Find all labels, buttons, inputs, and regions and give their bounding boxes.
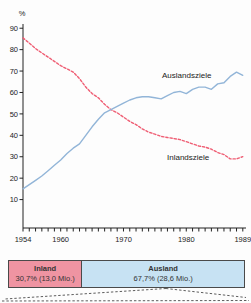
destination-share-bar: Inland 30,7% (13,0 Mio.) Ausland 67,7% (… bbox=[8, 260, 245, 288]
line-chart: %10203040506070809019541960197019801989A… bbox=[0, 0, 251, 256]
series-label-auslandsziele: Auslandsziele bbox=[162, 71, 212, 80]
bar-segment-inland: Inland 30,7% (13,0 Mio.) bbox=[9, 261, 82, 287]
bar-segment-inland-label: Inland bbox=[34, 265, 56, 274]
travel-destinations-figure: %10203040506070809019541960197019801989A… bbox=[0, 0, 251, 303]
y-tick-label: 50 bbox=[10, 110, 18, 119]
x-tick-label: 1970 bbox=[115, 235, 132, 244]
y-tick-label: 70 bbox=[10, 67, 18, 76]
bar-segment-ausland-value: 67,7% (28,6 Mio.) bbox=[134, 275, 193, 284]
y-tick-label: 60 bbox=[10, 88, 18, 97]
y-tick-label: 80 bbox=[10, 45, 18, 54]
y-tick-label: 30 bbox=[10, 152, 18, 161]
bar-segment-ausland-label: Ausland bbox=[148, 265, 178, 274]
x-tick-label: 1989 bbox=[234, 235, 251, 244]
callout-line-right bbox=[166, 289, 246, 298]
y-tick-label: 20 bbox=[10, 174, 18, 183]
series-line-auslandsziele bbox=[23, 72, 243, 189]
bar-segment-ausland: Ausland 67,7% (28,6 Mio.) bbox=[82, 261, 244, 287]
y-tick-label: 40 bbox=[10, 131, 18, 140]
y-axis-unit-label: % bbox=[19, 9, 26, 18]
y-tick-label: 10 bbox=[10, 195, 18, 204]
callout-line-bottom bbox=[2, 301, 249, 302]
y-tick-label: 90 bbox=[10, 24, 18, 33]
x-tick-label: 1980 bbox=[178, 235, 195, 244]
bar-segment-inland-value: 30,7% (13,0 Mio.) bbox=[16, 275, 75, 284]
callout-line-left bbox=[5, 289, 166, 300]
callout-dashed-lines bbox=[0, 286, 251, 303]
x-tick-label: 1954 bbox=[15, 235, 32, 244]
series-label-inlandsziele: Inlandsziele bbox=[167, 153, 210, 162]
x-tick-label: 1960 bbox=[52, 235, 69, 244]
